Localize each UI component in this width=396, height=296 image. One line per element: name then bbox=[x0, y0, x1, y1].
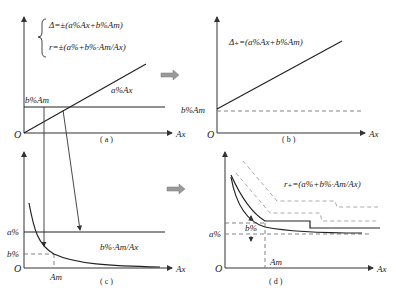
panel-d-x-label: Ax bbox=[376, 264, 387, 274]
right-arrow-icon bbox=[161, 70, 179, 80]
panel-c-curve-label: b%·Am/Ax bbox=[100, 242, 138, 252]
panel-a: Δ=±(a%Ax+b%Am) r=±(a%+b%·Am/Ax) b%Am a%A… bbox=[14, 17, 186, 144]
panel-a-caption: ( a ) bbox=[100, 135, 113, 144]
panel-c-caption: ( c ) bbox=[100, 277, 113, 286]
transition-arrow-c-to-d bbox=[167, 184, 185, 194]
panel-a-proportional-label: a%Ax bbox=[111, 85, 133, 95]
panel-c-relative-error-curve bbox=[29, 203, 160, 267]
right-arrow-icon bbox=[167, 184, 185, 194]
panel-d-a-label: a% bbox=[209, 229, 221, 239]
panel-c-origin: O bbox=[14, 263, 21, 274]
panel-d: b% a% r₊=(a%+b%·Am/Ax) Am O Ax ( d ) bbox=[209, 152, 387, 286]
measurement-error-diagram: Δ=±(a%Ax+b%Am) r=±(a%+b%·Am/Ax) b%Am a%A… bbox=[0, 0, 396, 296]
panel-b-x-label: Ax bbox=[368, 129, 379, 139]
panel-b: Δ₊=(a%Ax+b%Am) b%Am O Ax ( b ) bbox=[181, 17, 379, 144]
panel-d-caption: ( d ) bbox=[269, 277, 283, 286]
panel-c-am-label: Am bbox=[49, 272, 62, 282]
panel-c-x-label: Ax bbox=[175, 264, 186, 274]
panel-a-formula-r: r=±(a%+b%·Am/Ax) bbox=[49, 42, 126, 52]
panel-d-origin: O bbox=[215, 263, 222, 274]
panel-d-b-label: b% bbox=[245, 223, 257, 233]
connector-proportional-to-a bbox=[63, 110, 80, 230]
panel-a-x-label: Ax bbox=[175, 129, 186, 139]
panel-c: a% b% b%·Am/Ax Am O Ax ( c ) bbox=[7, 152, 186, 286]
transition-arrow-a-to-b bbox=[161, 70, 179, 80]
panel-d-formula: r₊=(a%+b%·Am/Ax) bbox=[284, 179, 361, 189]
panel-a-formula-delta: Δ=±(a%Ax+b%Am) bbox=[48, 20, 123, 30]
panel-b-total-error-line bbox=[217, 41, 342, 109]
brace-icon bbox=[38, 19, 46, 57]
panel-b-caption: ( b ) bbox=[282, 135, 296, 144]
panel-a-origin: O bbox=[14, 129, 21, 140]
panel-a-constant-label: b%Am bbox=[25, 95, 49, 105]
panel-d-am-label: Am bbox=[269, 257, 282, 267]
panel-c-b-label: b% bbox=[7, 249, 19, 259]
panel-b-intercept-label: b%Am bbox=[181, 105, 205, 115]
panel-b-formula: Δ₊=(a%Ax+b%Am) bbox=[228, 37, 303, 47]
panel-b-origin: O bbox=[207, 129, 214, 140]
panel-c-a-label: a% bbox=[7, 227, 19, 237]
